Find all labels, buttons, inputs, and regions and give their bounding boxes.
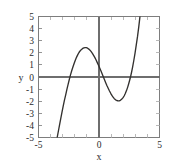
- x-axis-title: x: [97, 151, 102, 162]
- y-tick-label: 0: [29, 73, 34, 83]
- y-tick-label: -2: [26, 97, 34, 107]
- x-tick-label: 5: [157, 140, 162, 150]
- y-tick-label: 4: [29, 24, 34, 34]
- y-tick-label: 5: [29, 12, 34, 22]
- x-tick-label: -5: [35, 140, 43, 150]
- y-tick-label: 1: [29, 60, 34, 70]
- x-tick-label: 0: [97, 140, 102, 150]
- cubic-function-plot: 5 4 3 2 1 0 -1 -2 -3 -4 -5 -5 0 5 y x: [0, 0, 173, 164]
- chart-figure: 5 4 3 2 1 0 -1 -2 -3 -4 -5 -5 0 5 y x: [0, 0, 173, 164]
- y-tick-label: 3: [29, 36, 34, 46]
- y-tick-label: -1: [26, 85, 34, 95]
- y-axis-title: y: [19, 72, 24, 83]
- y-tick-label: -4: [26, 121, 34, 131]
- y-tick-label: 2: [29, 48, 34, 58]
- y-tick-label: -5: [26, 133, 34, 143]
- y-tick-label: -3: [26, 109, 34, 119]
